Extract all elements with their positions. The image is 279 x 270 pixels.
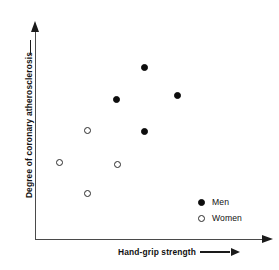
data-point-men <box>141 128 148 135</box>
filled-circle-icon <box>198 199 205 206</box>
x-axis-label: Hand-grip strength <box>118 247 196 257</box>
y-axis-label: Degree of coronary atherosclerosis <box>24 30 34 220</box>
x-axis-label-arrow-icon <box>231 248 240 256</box>
data-point-women <box>84 127 91 134</box>
x-axis-label-rule <box>200 251 230 252</box>
open-circle-icon <box>198 215 205 222</box>
y-axis-label-rule <box>30 40 31 55</box>
x-axis-label-group: Hand-grip strength <box>118 247 240 257</box>
data-point-men <box>174 92 181 99</box>
scatter-plot-figure: Degree of coronary atherosclerosis Hand-… <box>0 0 279 270</box>
data-point-women <box>84 190 91 197</box>
legend: Men Women <box>198 194 242 226</box>
legend-item-men[interactable]: Men <box>198 194 242 210</box>
data-point-men <box>113 96 120 103</box>
x-axis-arrow-icon <box>262 235 273 243</box>
x-axis-line <box>35 239 263 240</box>
data-point-women <box>114 161 121 168</box>
legend-label-men: Men <box>212 197 229 207</box>
data-point-men <box>141 64 148 71</box>
legend-item-women[interactable]: Women <box>198 210 242 226</box>
y-axis-line <box>35 31 36 240</box>
legend-label-women: Women <box>212 213 242 223</box>
data-point-women <box>56 159 63 166</box>
